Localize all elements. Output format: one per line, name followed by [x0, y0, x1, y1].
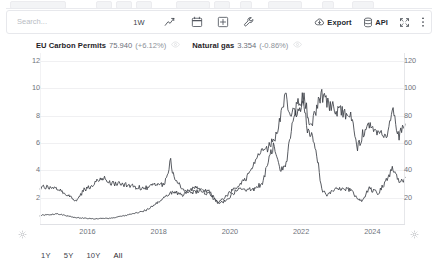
y-tick-right: 120: [404, 57, 416, 64]
chart-legend: EU Carbon Permits 75.940 (+6.12%) Natura…: [36, 38, 302, 52]
y-tick-right: 80: [404, 112, 412, 119]
wrench-icon[interactable]: [243, 12, 255, 32]
x-tick: 2024: [364, 228, 380, 235]
legend-change: (+6.12%): [135, 41, 166, 50]
y-tick-right: 40: [404, 166, 412, 173]
series-line-eu-carbon-permits: [40, 89, 405, 219]
legend-item-1[interactable]: Natural gas 3.354 (-0.86%): [192, 41, 302, 50]
range-button-10y[interactable]: 10Y: [85, 250, 101, 261]
y-tick-left: 12: [18, 57, 40, 64]
right-axis-settings-icon[interactable]: [410, 230, 419, 239]
plot-area[interactable]: [0, 53, 438, 225]
export-button[interactable]: Export: [314, 17, 352, 28]
add-indicator-icon[interactable]: [217, 12, 229, 32]
calendar-icon[interactable]: [191, 12, 203, 32]
more-options-icon[interactable]: [421, 16, 425, 28]
range-button-all[interactable]: All: [113, 250, 124, 261]
api-label: API: [375, 18, 388, 27]
y-tick-right: 60: [404, 139, 412, 146]
legend-change: (-0.86%): [259, 41, 288, 50]
y-tick-right: 100: [404, 84, 416, 91]
x-tick: 2018: [151, 228, 167, 235]
range-selector: 1Y5Y10YAll: [0, 250, 438, 275]
toolbar-right-group: Export API: [303, 16, 431, 28]
api-button[interactable]: API: [363, 17, 388, 28]
series-lines: [40, 89, 405, 219]
line-chart-icon[interactable]: [164, 12, 177, 32]
x-tick: 2016: [79, 228, 95, 235]
y-tick-left: 4: [18, 166, 40, 173]
export-label: Export: [327, 18, 351, 27]
search-input[interactable]: [17, 12, 127, 32]
y-tick-left: 6: [18, 139, 40, 146]
gridlines: [40, 62, 405, 199]
chart-widget: 1W: [0, 0, 438, 275]
x-axis: 20162018202020222024: [0, 228, 438, 242]
range-button-5y[interactable]: 5Y: [63, 250, 75, 261]
plot-svg: [0, 53, 438, 225]
y-tick-left: 10: [18, 84, 40, 91]
legend-value: 3.354: [237, 41, 256, 50]
y-tick-left: 8: [18, 112, 40, 119]
x-tick: 2020: [222, 228, 238, 235]
visibility-toggle-icon[interactable]: [293, 41, 302, 48]
y-tick-left: 2: [18, 194, 40, 201]
top-cutoff-strip: [0, 0, 438, 9]
legend-value: 75.940: [109, 41, 132, 50]
legend-name: EU Carbon Permits: [36, 41, 106, 50]
y-axis-right: 12010080604020: [404, 53, 430, 225]
visibility-toggle-icon[interactable]: [171, 41, 180, 48]
interval-button[interactable]: 1W: [127, 10, 151, 34]
legend-name: Natural gas: [192, 41, 234, 50]
legend-item-0[interactable]: EU Carbon Permits 75.940 (+6.12%): [36, 41, 180, 50]
y-axis-left: 12108642: [18, 53, 40, 225]
x-tick: 2022: [293, 228, 309, 235]
left-axis-settings-icon[interactable]: [18, 230, 27, 239]
chart-toolbar: 1W: [6, 10, 432, 34]
range-button-1y[interactable]: 1Y: [40, 250, 52, 261]
fullscreen-icon[interactable]: [399, 17, 410, 28]
y-tick-right: 20: [404, 194, 412, 201]
